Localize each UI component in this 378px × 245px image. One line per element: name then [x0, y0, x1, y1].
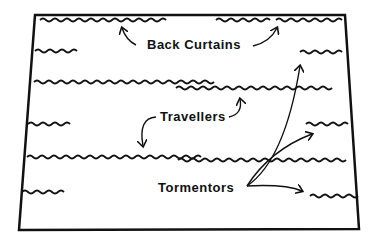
- arrow-traveller-upper: [229, 99, 241, 117]
- back-curtain-right: [276, 19, 342, 22]
- arrow-back-curtain-right: [253, 28, 277, 46]
- traveller-lower-right: [178, 159, 346, 162]
- traveller-upper-left: [34, 81, 214, 84]
- label-tormentors: Tormentors: [158, 180, 234, 195]
- label-back-curtains: Back Curtains: [147, 37, 241, 52]
- leg-right-1: [300, 51, 342, 54]
- back-curtain-center: [216, 19, 270, 22]
- back-curtain-left: [40, 19, 166, 22]
- tormentor-right: [310, 195, 358, 198]
- traveller-upper-right: [176, 87, 332, 90]
- traveller-lower-left: [27, 156, 201, 159]
- leg-left-1: [35, 50, 77, 53]
- leg-right-2: [306, 123, 348, 126]
- arrow-tormentor-low: [247, 186, 302, 191]
- tormentor-left: [22, 191, 64, 194]
- arrow-traveller-lower: [142, 117, 156, 146]
- label-travellers: Travellers: [160, 109, 226, 124]
- arrow-back-curtain-left: [122, 28, 136, 45]
- arrow-tormentor-long: [247, 66, 300, 186]
- leg-left-2: [28, 123, 70, 126]
